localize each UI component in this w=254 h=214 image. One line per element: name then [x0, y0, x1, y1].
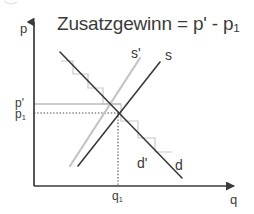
staircase-steps	[61, 61, 172, 152]
figure-title: Zusatzgewinn = p' - p1	[57, 14, 240, 33]
y-tick-label-p-one: p1	[15, 108, 26, 120]
figure-title-text: Zusatzgewinn = p' - p	[57, 13, 233, 34]
y-tick-p-one-subscript: 1	[22, 113, 26, 122]
y-axis-label: p	[20, 22, 27, 35]
x-tick-q-one-text: q	[112, 189, 119, 203]
x-axis-label: q	[230, 193, 237, 206]
curve-label-d: d	[175, 158, 183, 172]
x-tick-label-q-one: q1	[112, 190, 123, 202]
figure-title-subscript: 1	[233, 21, 239, 34]
demand-curve-d	[60, 52, 182, 178]
crop-artifact-arc	[4, 1, 17, 4]
curve-label-d-prime: d'	[137, 156, 147, 170]
supply-demand-figure: Zusatzgewinn = p' - p1 p q p' p1 q1 s' s…	[0, 0, 254, 214]
x-tick-q-one-subscript: 1	[119, 195, 123, 204]
y-tick-p-one-text: p	[15, 107, 22, 121]
curve-label-s-prime: s'	[131, 46, 141, 60]
curve-label-s: s	[165, 48, 172, 62]
